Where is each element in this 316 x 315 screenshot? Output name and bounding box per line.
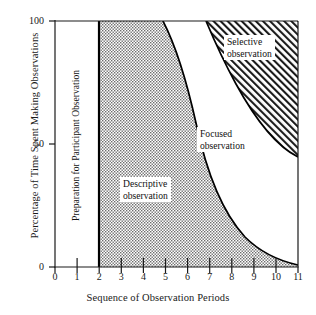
x-tick-label-10: 10 [267,271,285,282]
x-tick-label-7: 7 [201,271,219,282]
x-tick-label-2: 2 [90,271,108,282]
x-tick-label-0: 0 [46,271,64,282]
region-label-focused: Focused observation [197,127,248,152]
x-axis-title: Sequence of Observation Periods [0,292,316,303]
x-tick-label-6: 6 [179,271,197,282]
observation-phases-chart: Percentage of Time Spent Making Observat… [0,0,316,315]
x-tick-label-3: 3 [112,271,130,282]
y-tick-label-0: 0 [18,261,44,272]
region-label-focused-line1: Focused [200,128,245,140]
region-label-descriptive: Descriptive observation [120,177,171,202]
x-tick-label-8: 8 [223,271,241,282]
x-tick-label-4: 4 [134,271,152,282]
region-label-preparation: Preparation for Participant Observation [70,46,81,246]
y-tick-label-50: 50 [18,138,44,149]
region-label-focused-line2: observation [200,140,245,152]
x-tick-label-1: 1 [68,271,86,282]
region-label-descriptive-line2: observation [123,190,168,202]
region-label-selective-line1: Selective [227,36,272,48]
y-axis-ticks [49,21,55,267]
region-label-selective: Selective observation [224,35,275,60]
x-tick-label-5: 5 [157,271,175,282]
x-tick-label-11: 11 [289,271,307,282]
region-label-descriptive-line1: Descriptive [123,178,168,190]
y-tick-label-100: 100 [18,15,44,26]
x-tick-label-9: 9 [245,271,263,282]
y-axis-title: Percentage of Time Spent Making Observat… [29,6,40,266]
region-label-selective-line2: observation [227,48,272,60]
